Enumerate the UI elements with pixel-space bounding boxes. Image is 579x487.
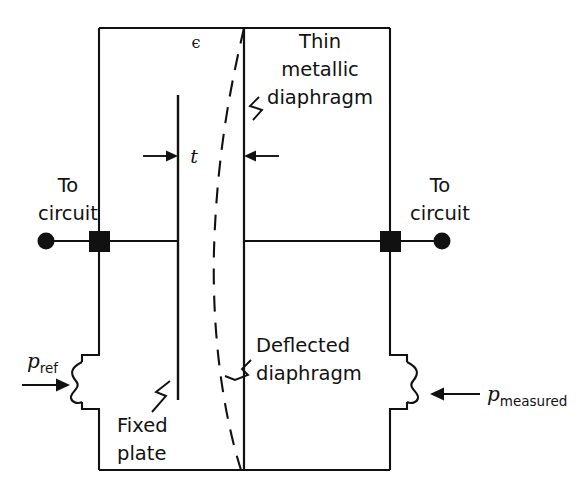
to-circuit-right-line2: circuit (410, 202, 470, 225)
thin-metallic-diaphragm-line2: metallic (281, 58, 359, 81)
thin-metallic-diaphragm-line3: diaphragm (267, 86, 373, 109)
pressure-reference-annotation: pref (22, 349, 70, 392)
body-right-wall-lower (390, 402, 407, 470)
body-right-wall-upper (390, 28, 407, 362)
thin-metallic-diaphragm-line1: Thin (298, 30, 341, 53)
to-circuit-left-line1: To (57, 174, 79, 197)
deflected-diaphragm-annotation: Deflected diaphragm (225, 334, 362, 385)
pressure-measured-base: p (487, 382, 500, 406)
thickness-arrow-left-icon (166, 151, 178, 162)
pressure-measured-label: pmeasured (487, 382, 567, 409)
fixed-plate-annotation: Fixed plate (117, 381, 170, 465)
fixed-plate-line2: plate (117, 442, 166, 465)
deflected-diaphragm-line2: diaphragm (256, 362, 362, 385)
deflected-diaphragm-leader (225, 360, 251, 380)
pressure-measured-annotation: pmeasured (430, 382, 567, 409)
body-left-wall-upper (82, 28, 99, 362)
body-left-wall-lower (82, 402, 99, 470)
pressure-reference-base: p (27, 349, 40, 373)
terminal-square-right-icon (380, 231, 401, 252)
thickness-arrow-right-icon (244, 151, 256, 162)
thickness-dimension: t (143, 145, 279, 167)
thin-metallic-diaphragm-annotation: Thin metallic diaphragm (250, 30, 373, 120)
diagram-canvas: t ϵ Thin metallic diaphragm Deflected di… (0, 0, 579, 487)
thickness-symbol-label: t (190, 145, 198, 167)
deflected-diaphragm-line1: Deflected (256, 334, 350, 357)
pressure-reference-arrow-icon (56, 379, 70, 392)
fixed-plate-line1: Fixed (117, 414, 168, 437)
to-circuit-left-line2: circuit (38, 202, 98, 225)
pressure-measured-arrow-icon (430, 388, 444, 401)
terminal-dot-right-icon (434, 233, 451, 250)
to-circuit-left-annotation: To circuit (38, 174, 98, 225)
permittivity-symbol-label: ϵ (192, 33, 201, 52)
pressure-measured-subscript: measured (500, 393, 567, 409)
terminal-square-left-icon (89, 231, 110, 252)
pressure-transducer-diagram: t ϵ Thin metallic diaphragm Deflected di… (0, 0, 579, 487)
bellows-left (71, 362, 82, 403)
pressure-reference-label: pref (27, 349, 59, 376)
to-circuit-right-line1: To (429, 174, 451, 197)
bellows-right (407, 362, 418, 403)
terminal-dot-left-icon (38, 233, 55, 250)
pressure-reference-subscript: ref (40, 360, 60, 376)
fixed-plate-leader (152, 381, 170, 412)
to-circuit-right-annotation: To circuit (410, 174, 470, 225)
deflected-diaphragm-curve (214, 28, 244, 470)
thin-metallic-diaphragm-leader (250, 97, 262, 120)
